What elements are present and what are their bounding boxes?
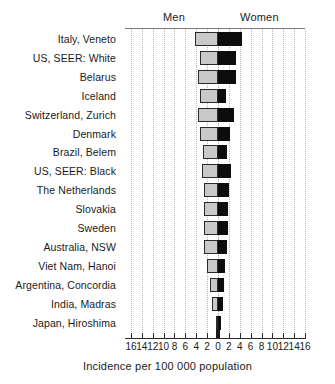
- x-axis-tick: [240, 333, 241, 338]
- x-axis-zero-tick: [216, 330, 220, 338]
- bar-men: [198, 70, 218, 84]
- category-label: Argentina, Concordia: [0, 279, 116, 291]
- category-label: Australia, NSW: [0, 241, 116, 253]
- bar-men: [204, 240, 218, 254]
- bar-row: [125, 238, 305, 257]
- bar-row: [125, 295, 305, 314]
- x-axis-tick: [196, 333, 197, 338]
- bar-row: [125, 30, 305, 49]
- bar-men: [200, 127, 218, 141]
- x-axis-tick: [207, 333, 208, 338]
- category-label: Belarus: [0, 71, 116, 83]
- x-axis-tick: [174, 333, 175, 338]
- category-label: Iceland: [0, 90, 116, 102]
- bar-men: [195, 32, 218, 46]
- category-label: India, Madras: [0, 298, 116, 310]
- x-axis-tick-label: 16: [297, 341, 313, 352]
- x-axis-tick: [153, 333, 154, 338]
- bar-row: [125, 219, 305, 238]
- x-axis-tick: [305, 333, 306, 338]
- bar-women: [218, 297, 223, 311]
- x-axis-title: Incidence per 100 000 population: [0, 360, 335, 372]
- category-labels: Italy, VenetoUS, SEER: WhiteBelarusIcela…: [0, 29, 120, 332]
- bar-row: [125, 314, 305, 333]
- bar-men: [204, 221, 218, 235]
- x-axis-tick: [185, 333, 186, 338]
- category-label: US, SEER: White: [0, 52, 116, 64]
- category-label: Brazil, Belem: [0, 146, 116, 158]
- bar-row: [125, 181, 305, 200]
- bar-women: [218, 316, 221, 330]
- category-label: Italy, Veneto: [0, 33, 116, 45]
- bar-row: [125, 200, 305, 219]
- bar-men: [202, 164, 218, 178]
- x-axis-tick: [283, 333, 284, 338]
- bar-women: [218, 32, 242, 46]
- category-label: Slovakia: [0, 203, 116, 215]
- category-label: Japan, Hiroshima: [0, 317, 116, 329]
- bar-women: [218, 278, 224, 292]
- bar-women: [218, 108, 234, 122]
- bar-men: [204, 202, 218, 216]
- bar-men: [210, 278, 218, 292]
- x-axis-tick: [142, 333, 143, 338]
- bar-row: [125, 106, 305, 125]
- bar-women: [218, 145, 227, 159]
- bar-men: [203, 145, 218, 159]
- x-axis-tick: [131, 333, 132, 338]
- category-label: Denmark: [0, 128, 116, 140]
- bar-row: [125, 125, 305, 144]
- bar-row: [125, 276, 305, 295]
- bar-men: [198, 108, 218, 122]
- bar-women: [218, 202, 228, 216]
- bar-men: [207, 259, 218, 273]
- gridline: [305, 29, 306, 332]
- bar-women: [218, 183, 229, 197]
- bar-row: [125, 68, 305, 87]
- x-axis-tick: [294, 333, 295, 338]
- x-axis-tick: [262, 333, 263, 338]
- bar-women: [218, 164, 231, 178]
- incidence-chart: Men Women Italy, VenetoUS, SEER: WhiteBe…: [0, 0, 335, 384]
- group-legend: Men Women: [0, 11, 335, 27]
- group-label-women: Women: [240, 11, 279, 23]
- plot-area: [125, 29, 305, 332]
- bar-women: [218, 89, 226, 103]
- bar-row: [125, 257, 305, 276]
- x-axis-tick: [272, 333, 273, 338]
- x-axis-tick: [164, 333, 165, 338]
- category-label: Sweden: [0, 222, 116, 234]
- bar-women: [218, 240, 227, 254]
- bar-women: [218, 221, 228, 235]
- bar-men: [204, 183, 218, 197]
- bar-row: [125, 49, 305, 68]
- group-label-men: Men: [163, 11, 185, 23]
- bar-women: [218, 127, 230, 141]
- bar-men: [200, 89, 218, 103]
- bar-women: [218, 70, 236, 84]
- category-label: Switzerland, Zurich: [0, 109, 116, 121]
- category-label: The Netherlands: [0, 184, 116, 196]
- bar-women: [218, 51, 236, 65]
- bar-row: [125, 162, 305, 181]
- bar-row: [125, 87, 305, 106]
- x-axis-line: [125, 338, 306, 339]
- x-axis-tick: [251, 333, 252, 338]
- category-label: Viet Nam, Hanoi: [0, 260, 116, 272]
- bar-rows: [125, 29, 305, 332]
- category-label: US, SEER: Black: [0, 165, 116, 177]
- bar-men: [200, 51, 218, 65]
- bar-row: [125, 143, 305, 162]
- bar-women: [218, 259, 225, 273]
- x-axis-tick: [229, 333, 230, 338]
